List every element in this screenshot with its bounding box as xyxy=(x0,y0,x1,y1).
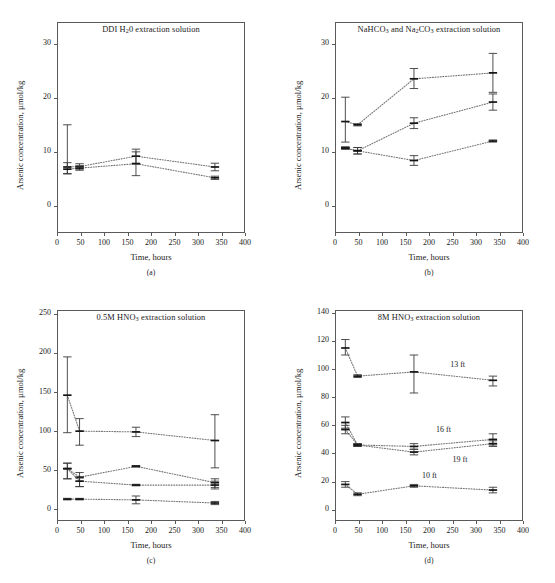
series-annotation-13-ft: 13 ft xyxy=(450,360,465,369)
series-10-ft xyxy=(341,482,497,496)
series-line xyxy=(67,466,215,482)
series-series-2 xyxy=(341,94,497,154)
series-line xyxy=(345,484,493,494)
series-line xyxy=(345,102,493,151)
panel-b: NaHCO3 and Na2CO3 extraction solution010… xyxy=(278,0,555,295)
series-line xyxy=(67,499,215,503)
panel-a: DDI H20 extraction solution0102030050100… xyxy=(0,0,277,295)
series-annotation-16-ft: 16 ft xyxy=(436,425,451,434)
series-line xyxy=(345,141,493,161)
series-series-3 xyxy=(341,140,497,165)
series-19-ft xyxy=(341,425,497,455)
data-series-layer-d xyxy=(278,288,555,583)
figure-arsenic-extraction: DDI H20 extraction solution0102030050100… xyxy=(0,0,555,583)
series-13-ft xyxy=(341,340,497,393)
series-line xyxy=(67,395,215,440)
panel-d: 8M HNO3 extraction solution0204060801001… xyxy=(278,288,555,583)
series-line xyxy=(345,430,493,453)
series-line xyxy=(345,73,493,125)
series-series-1 xyxy=(63,125,219,174)
series-line xyxy=(345,423,493,447)
data-series-layer-c xyxy=(0,288,277,583)
series-line xyxy=(67,469,215,486)
data-series-layer-b xyxy=(278,0,555,295)
series-series-4 xyxy=(63,496,219,505)
series-series-2 xyxy=(63,463,219,487)
panel-c: 0.5M HNO3 extraction solution05010015020… xyxy=(0,288,277,583)
series-series-1 xyxy=(341,53,497,142)
data-series-layer-a xyxy=(0,0,277,295)
series-annotation-10-ft: 10 ft xyxy=(422,471,437,480)
series-line xyxy=(345,348,493,380)
series-annotation-19-ft: 19 ft xyxy=(453,455,468,464)
series-line xyxy=(67,156,215,167)
series-16-ft xyxy=(341,417,497,449)
series-line xyxy=(67,164,215,178)
series-series-1 xyxy=(63,357,219,468)
